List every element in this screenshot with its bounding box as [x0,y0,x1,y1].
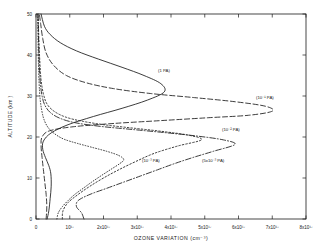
x-tick-label: 7x10¹⁷ [266,225,279,230]
curve-annotations: (1 PA)(10⁻¹ PA)(10⁻² PA)(10⁻³ PA)(5x10⁻³… [142,68,274,163]
y-axis-ticks [36,14,306,219]
x-tick-label: 4x10¹⁷ [164,225,177,230]
label-1pa: (1 PA) [158,68,170,73]
y-axis-tick-labels: 01020304050 [27,12,33,222]
y-tick-label: 30 [27,94,33,99]
y-tick-label: 0 [29,217,32,222]
curve-5x10-3-pa [38,14,124,219]
x-axis-tick-labels: 010¹⁷2x10¹⁷3x10¹⁷4x10¹⁷5x10¹⁷6x10¹⁷7x10¹… [35,225,313,230]
x-tick-label: 0 [35,225,38,230]
ozone-variation-figure: 010¹⁷2x10¹⁷3x10¹⁷4x10¹⁷5x10¹⁷6x10¹⁷7x10¹… [0,0,321,246]
ozone-altitude-line-chart: 010¹⁷2x10¹⁷3x10¹⁷4x10¹⁷5x10¹⁷6x10¹⁷7x10¹… [0,0,321,246]
axes-frame [36,14,306,219]
curve-1-pa [41,14,165,219]
x-tick-label: 5x10¹⁷ [198,225,211,230]
x-axis-ticks [36,14,306,219]
curve-10-3-pa [38,14,202,219]
x-tick-label: 10¹⁷ [66,225,75,230]
label-1e-1pa: (10⁻¹ PA) [256,95,274,100]
y-tick-label: 10 [27,176,33,181]
y-tick-label: 50 [27,12,33,17]
x-tick-label: 2x10¹⁷ [97,225,110,230]
label-1e-2pa: (10⁻² PA) [222,127,240,132]
curve-10-1-pa [39,14,273,219]
label-1e-3pa: (10⁻³ PA) [142,158,160,163]
curve-10-2-pa [38,14,235,219]
x-tick-label: 3x10¹⁷ [131,225,144,230]
data-curves [38,14,274,219]
label-5e-3pa: (5x10⁻³ PA) [202,158,225,163]
x-tick-label: 8x10¹⁷ [299,225,312,230]
y-tick-label: 20 [27,135,33,140]
x-axis-title: OZONE VARIATION (cm⁻³) [134,235,209,241]
y-tick-label: 40 [27,53,33,58]
x-tick-label: 6x10¹⁷ [232,225,245,230]
y-axis-title: ALTITUDE (km ) [7,95,13,137]
